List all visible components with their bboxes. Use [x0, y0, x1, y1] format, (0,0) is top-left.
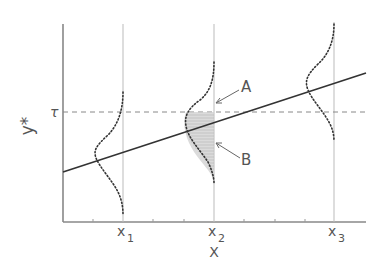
annotation-b-label: B [241, 151, 251, 169]
x3-tick-label: x 3 [328, 223, 345, 245]
diagram-canvas: A B τ y* X x 1 x 2 x 3 [0, 0, 386, 274]
y-axis-label: y* [17, 117, 37, 136]
annotation-b-arrow [216, 143, 240, 158]
svg-text:1: 1 [127, 232, 134, 245]
svg-text:x: x [328, 223, 336, 239]
threshold-label: τ [50, 104, 59, 120]
annotation-a-arrow [216, 90, 239, 103]
svg-text:2: 2 [218, 232, 225, 245]
svg-text:x: x [117, 223, 125, 239]
annotation-a-label: A [241, 78, 252, 96]
density-curve-x3 [306, 24, 334, 141]
x-axis-label: X [209, 244, 219, 260]
x2-tick-label: x 2 [208, 223, 225, 245]
x1-tick-label: x 1 [117, 223, 134, 245]
svg-text:3: 3 [338, 232, 345, 245]
censored-area-shading [184, 112, 214, 182]
svg-text:x: x [208, 223, 216, 239]
